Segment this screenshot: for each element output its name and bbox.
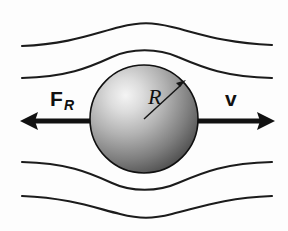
fluid-drag-diagram: F R v R xyxy=(0,0,288,231)
radius-label: R xyxy=(147,84,162,109)
streamline-bottom-outer xyxy=(22,196,272,218)
streamline-top-outer xyxy=(22,23,272,46)
drag-force-subscript-label: R xyxy=(64,97,75,113)
diagram-canvas: F R v R xyxy=(0,0,288,231)
drag-force-label: F xyxy=(50,87,63,110)
velocity-label: v xyxy=(225,87,237,110)
